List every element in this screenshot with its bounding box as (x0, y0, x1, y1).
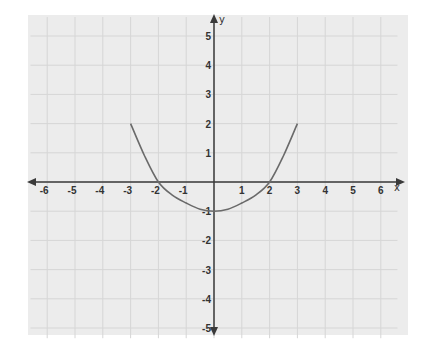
y-tick-label: -5 (202, 323, 211, 334)
y-tick-label: 2 (205, 119, 211, 130)
x-tick-label: 5 (350, 185, 356, 196)
plot-background (28, 15, 408, 335)
y-tick-label: -4 (202, 294, 211, 305)
x-tick-label: -5 (68, 185, 77, 196)
x-axis-label: x (394, 182, 400, 193)
x-tick-label: 2 (267, 185, 273, 196)
y-tick-label: 5 (205, 31, 211, 42)
x-tick-label: -4 (95, 185, 104, 196)
x-tick-label: -2 (151, 185, 160, 196)
coordinate-plane: -6-5-4-3-2-1123456 54321-1-2-3-4-5 x y (0, 0, 423, 359)
x-tick-label: -3 (123, 185, 132, 196)
y-tick-label: -2 (202, 235, 211, 246)
x-tick-label: -1 (179, 185, 188, 196)
y-tick-label: 3 (205, 89, 211, 100)
x-tick-label: 6 (378, 185, 384, 196)
y-axis-label: y (219, 14, 225, 25)
y-tick-label: 1 (205, 148, 211, 159)
x-tick-label: 4 (322, 185, 328, 196)
y-tick-label: 4 (205, 60, 211, 71)
x-tick-label: 1 (239, 185, 245, 196)
x-tick-label: -6 (40, 185, 49, 196)
y-tick-label: -3 (202, 265, 211, 276)
x-tick-label: 3 (295, 185, 301, 196)
